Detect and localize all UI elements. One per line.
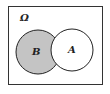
- venn-diagram: Ω B A: [0, 0, 110, 94]
- universe-label: Ω: [19, 12, 29, 23]
- set-b-label: B: [31, 46, 40, 57]
- set-a-label: A: [67, 44, 76, 55]
